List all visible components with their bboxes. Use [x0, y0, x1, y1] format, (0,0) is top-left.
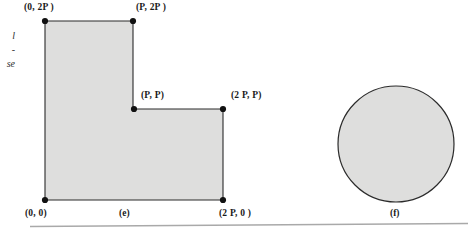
vertex-label-bottom-left: (0, 0)	[25, 209, 47, 219]
margin-fragment-1-text: l	[12, 30, 15, 41]
vertex-label-top-right: (P, 2P )	[136, 3, 166, 13]
vertex-dot-2P-0	[220, 197, 226, 203]
margin-text-fragment-3: se	[0, 58, 16, 70]
vertex-dot-0-0	[42, 197, 48, 203]
vertex-dot-0-2P	[42, 18, 48, 24]
margin-text-fragment-2: -	[0, 44, 16, 56]
figure-caption-f: (f)	[390, 209, 400, 219]
vertex-dot-P-2P	[130, 18, 136, 24]
vertex-label-inner-corner: (P, P)	[141, 91, 164, 101]
page-rule	[30, 224, 468, 227]
margin-fragment-2-text: -	[12, 44, 15, 55]
vertex-label-right: (2 P, P)	[231, 91, 262, 101]
margin-text-fragment-1: l	[0, 30, 16, 42]
vertex-dot-2P-P	[220, 106, 226, 112]
diagram-svg	[0, 0, 468, 236]
margin-fragment-3-text: se	[7, 58, 15, 69]
vertex-label-bottom-right: (2 P, 0 )	[219, 209, 251, 219]
figure-caption-e: (e)	[119, 209, 130, 219]
vertex-label-top-left: (0, 2P )	[24, 3, 54, 13]
figure-canvas: (0, 2P ) (P, 2P ) (P, P) (2 P, P) (0, 0)…	[0, 0, 468, 236]
vertex-dot-P-P	[131, 106, 137, 112]
circle-shape	[338, 86, 454, 202]
